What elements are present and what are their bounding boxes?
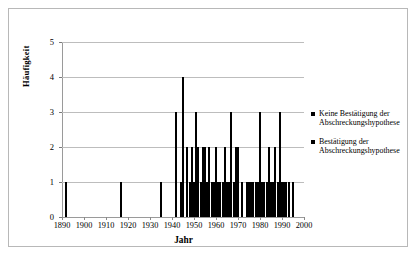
legend-entry: Keine Bestätigung der Abschreckungshypot…	[311, 109, 415, 128]
legend-label: Bestätigung der Abschreckungshypothese	[319, 137, 415, 156]
legend-entry: Bestätigung der Abschreckungshypothese	[311, 137, 415, 156]
x-tick-mark	[84, 217, 85, 220]
chart-frame: Häufigkeit 012345 1890190019101920193019…	[8, 8, 408, 247]
y-tick-label: 2	[38, 143, 54, 152]
y-tick-label: 4	[38, 73, 54, 82]
bar	[160, 182, 162, 217]
bar	[182, 77, 184, 217]
x-tick-mark	[128, 217, 129, 220]
legend-swatch-icon	[311, 140, 315, 144]
legend-label: Keine Bestätigung der Abschreckungshypot…	[319, 109, 415, 128]
bar	[120, 182, 122, 217]
bar	[241, 182, 243, 217]
plot-area	[62, 42, 304, 217]
bar	[175, 112, 177, 217]
bar	[65, 182, 67, 217]
x-tick-mark	[62, 217, 63, 220]
y-tick-label: 5	[38, 38, 54, 47]
x-tick-mark	[216, 217, 217, 220]
chart-legend: Keine Bestätigung der Abschreckungshypot…	[311, 109, 415, 165]
x-axis-line	[62, 217, 305, 218]
x-tick-mark	[150, 217, 151, 220]
x-tick-mark	[172, 217, 173, 220]
x-tick-mark	[282, 217, 283, 220]
x-tick-mark	[260, 217, 261, 220]
x-tick-mark	[238, 217, 239, 220]
y-tick-label: 1	[38, 178, 54, 187]
bar	[292, 182, 294, 217]
x-tick-mark	[304, 217, 305, 220]
x-tick-mark	[194, 217, 195, 220]
legend-swatch-icon	[311, 112, 315, 116]
bar	[237, 147, 239, 217]
bar	[288, 182, 290, 217]
y-axis-label: Häufigkeit	[21, 45, 31, 87]
x-tick-label: 2000	[289, 221, 319, 230]
y-tick-label: 3	[38, 108, 54, 117]
x-tick-mark	[106, 217, 107, 220]
x-axis-label: Jahr	[62, 235, 305, 245]
